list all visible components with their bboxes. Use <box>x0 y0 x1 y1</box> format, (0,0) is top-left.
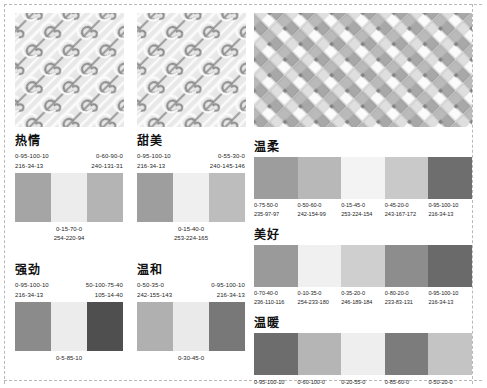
trim-mark-top <box>4 4 482 5</box>
color-swatch <box>51 302 87 351</box>
cmyk-value: 0-95-100-10 <box>428 201 472 210</box>
color-swatch <box>173 173 209 222</box>
cmyk-value: 0-95-100-10 <box>428 289 472 298</box>
color-code: 0-95-100-10 216-34-13 <box>428 201 472 218</box>
group-title: 美好 <box>254 228 472 242</box>
rgb-value: 243-167-172 <box>385 210 429 219</box>
cmyk-value: 0-85-60-0 <box>385 378 429 387</box>
group-code-row: 0-70-40-0 236-110-116 0-10-35-0 254-233-… <box>254 287 472 306</box>
color-swatch <box>173 302 209 351</box>
group-title: 温暖 <box>254 316 472 330</box>
color-swatch <box>209 173 245 222</box>
rgb-value: 246-189-184 <box>341 298 385 307</box>
rgb-value: 216-34-13 <box>428 298 472 307</box>
rgb-value: 216-34-13 <box>211 290 245 300</box>
cmyk-value: 50-100-75-40 <box>86 280 123 290</box>
cmyk-value: 0-15-40-0 <box>137 225 245 234</box>
group-title: 甜美 <box>137 134 245 148</box>
rgb-value: 216-34-13 <box>15 161 49 171</box>
color-swatch <box>15 302 51 351</box>
color-swatch <box>254 333 298 375</box>
swatch-strip <box>254 157 472 199</box>
cmyk-value: 0-75-50-0 <box>254 201 298 210</box>
group-title: 热情 <box>15 134 123 148</box>
swatch-strip <box>137 302 245 351</box>
color-code: 0-50-60-0 242-154-99 <box>298 201 342 218</box>
color-swatch <box>428 245 472 287</box>
color-code: 0-70-40-0 236-110-116 <box>254 289 298 306</box>
cmyk-value: 0-95-100-10 <box>15 280 49 290</box>
group-code-row: 0-95-100-10 216-34-13 50-100-75-40 105-1… <box>15 280 123 302</box>
group-title: 温和 <box>137 263 245 277</box>
swatch-strip <box>254 245 472 287</box>
color-swatch <box>341 157 385 199</box>
cmyk-value: 0-45-20-0 <box>385 201 429 210</box>
group-code-row: 0-95-100-10 0-60-100-0 0-20-55-0 0-85-60… <box>254 375 472 387</box>
palette-group-reqing: 热情 0-95-100-10 216-34-13 0-60-90-0 240-1… <box>15 134 123 243</box>
color-swatch <box>87 302 123 351</box>
color-code: 0-45-20-0 243-167-172 <box>385 201 429 218</box>
cmyk-value: 0-10-35-0 <box>298 289 342 298</box>
rgb-value: 236-110-116 <box>254 298 298 307</box>
rgb-value: 216-34-13 <box>137 161 171 171</box>
rgb-value: 253-224-154 <box>341 210 385 219</box>
group-code-row: 0-95-100-10 216-34-13 0-60-90-0 240-131-… <box>15 151 123 173</box>
cmyk-value: 0-50-60-0 <box>298 201 342 210</box>
cmyk-value: 0-50-35-0 <box>137 280 172 290</box>
group-code-row: 0-50-35-0 242-155-143 0-95-100-10 216-34… <box>137 280 245 302</box>
color-code: 0-95-100-10 216-34-13 <box>428 289 472 306</box>
color-swatch <box>298 157 342 199</box>
color-swatch <box>254 157 298 199</box>
rgb-value: 254-233-180 <box>298 298 342 307</box>
color-swatch <box>341 333 385 375</box>
swatch-strip <box>254 333 472 375</box>
color-code: 0-15-45-0 253-224-154 <box>341 201 385 218</box>
rgb-value: 242-154-99 <box>298 210 342 219</box>
color-code: 0-75-50-0 235-97-97 <box>254 201 298 218</box>
rgb-value: 254-220-94 <box>15 234 123 243</box>
group-code-row: 0-95-100-10 216-34-13 0-55-30-0 240-145-… <box>137 151 245 173</box>
color-code-top-right: 0-55-30-0 240-145-146 <box>210 151 245 171</box>
color-swatch <box>385 333 429 375</box>
color-swatch <box>428 333 472 375</box>
swatch-strip <box>15 173 123 222</box>
cmyk-value: 0-50-20-0 <box>428 378 472 387</box>
rgb-value: 242-155-143 <box>137 290 172 300</box>
palette-page: 热情 0-95-100-10 216-34-13 0-60-90-0 240-1… <box>0 0 487 388</box>
color-swatch <box>209 302 245 351</box>
color-swatch <box>385 157 429 199</box>
right-panel: 温柔 0-75-50-0 235-97-97 0-50-60-0 242-154… <box>254 140 472 367</box>
palette-group-tianmei: 甜美 0-95-100-10 216-34-13 0-55-30-0 240-1… <box>137 134 245 243</box>
palette-group-wenhe: 温和 0-50-35-0 242-155-143 0-95-100-10 216… <box>137 263 245 363</box>
cmyk-value: 0-15-70-0 <box>15 225 123 234</box>
cmyk-value: 0-95-100-10 <box>137 151 171 161</box>
swatch-strip <box>15 302 123 351</box>
rgb-value: 216-34-13 <box>15 290 49 300</box>
cmyk-value: 0-70-40-0 <box>254 289 298 298</box>
trim-mark-right <box>472 4 473 384</box>
palette-group-wenrou: 温柔 0-75-50-0 235-97-97 0-50-60-0 242-154… <box>254 140 472 218</box>
color-code-bottom: 0-30-45-0 <box>137 351 245 363</box>
cmyk-value: 0-60-100-0 <box>298 378 342 387</box>
color-swatch <box>298 245 342 287</box>
color-code-top-left: 0-50-35-0 242-155-143 <box>137 280 172 300</box>
color-code-bottom: 0-5-85-10 <box>15 351 123 363</box>
cmyk-value: 0-5-85-10 <box>15 354 123 363</box>
cmyk-value: 0-95-100-10 <box>254 378 298 387</box>
rgb-value: 233-83-131 <box>385 298 429 307</box>
trim-mark-left <box>4 4 5 384</box>
color-swatch <box>87 173 123 222</box>
color-swatch <box>15 173 51 222</box>
color-swatch <box>137 173 173 222</box>
cmyk-value: 0-35-20-0 <box>341 289 385 298</box>
color-code-top-right: 0-60-90-0 240-131-31 <box>91 151 123 171</box>
cmyk-value: 0-95-100-10 <box>15 151 49 161</box>
rgb-value: 240-145-146 <box>210 161 245 171</box>
rgb-value: 235-97-97 <box>254 210 298 219</box>
cmyk-value: 0-20-55-0 <box>341 378 385 387</box>
basketweave-pattern-right <box>254 13 472 127</box>
color-code-top-left: 0-95-100-10 216-34-13 <box>15 280 49 300</box>
rgb-value: 240-131-31 <box>91 161 123 171</box>
color-code-bottom: 0-15-70-0 254-220-94 <box>15 222 123 243</box>
color-swatch <box>137 302 173 351</box>
